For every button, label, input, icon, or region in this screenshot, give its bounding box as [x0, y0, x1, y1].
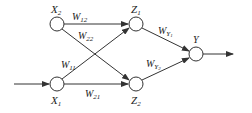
label-y: Y: [193, 34, 200, 45]
label-x1: X1: [50, 94, 61, 108]
label-w12: W12: [72, 11, 88, 24]
label-w22: W22: [78, 30, 94, 43]
edge-x2-z2: [62, 29, 129, 80]
node-x1: [50, 77, 64, 91]
node-x2: [50, 17, 64, 31]
node-z1: [129, 17, 143, 31]
label-w11: W11: [61, 59, 76, 72]
label-z1: Z1: [131, 3, 141, 17]
label-z2: Z2: [131, 94, 141, 108]
label-wy1: WY1: [158, 25, 173, 38]
node-y: [189, 47, 203, 61]
label-w21: W21: [85, 88, 100, 101]
label-x2: X2: [50, 3, 62, 17]
label-wy2: WY2: [146, 58, 161, 71]
node-z2: [129, 77, 143, 91]
neural-network-diagram: X2 X1 Z1 Z2 Y W12 W22 W11 W21 WY1 WY2: [0, 0, 252, 113]
